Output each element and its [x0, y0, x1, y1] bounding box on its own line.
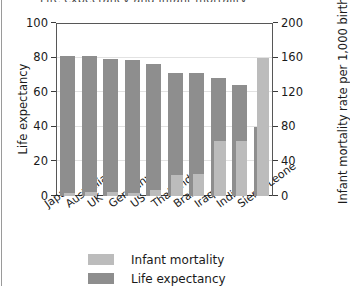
left-axis-line [56, 23, 57, 196]
right-tick-mark [273, 57, 278, 58]
bar-slot [146, 23, 161, 196]
left-tick-label: 40 [33, 121, 48, 133]
bar-infant-mortality[interactable] [85, 192, 97, 196]
bar-life-expectancy[interactable] [146, 64, 161, 196]
bar-infant-mortality[interactable] [193, 174, 205, 196]
left-tick-label: 80 [33, 52, 48, 64]
bar-slot [189, 23, 204, 196]
bar-infant-mortality[interactable] [214, 141, 226, 196]
bar-infant-mortality[interactable] [171, 175, 183, 196]
bar-life-expectancy[interactable] [125, 60, 140, 196]
legend-item[interactable]: Life expectancy [88, 270, 278, 286]
right-tick-label: 80 [281, 121, 296, 133]
right-axis-line [272, 23, 273, 196]
left-tick-mark [51, 91, 56, 92]
bar-life-expectancy[interactable] [82, 56, 97, 196]
right-tick-mark [273, 126, 278, 127]
bar-slot [82, 23, 97, 196]
bar-slot [103, 23, 118, 196]
legend-swatch [88, 273, 114, 284]
left-tick-mark [51, 126, 56, 127]
plot-area: 020406080100 04080120160200 [57, 23, 272, 196]
right-axis-title: Infant mortality rate per 1,000 births [336, 0, 350, 14]
right-tick-label: 160 [281, 52, 303, 64]
right-tick-label: 0 [281, 191, 288, 203]
left-tick-mark [51, 22, 56, 23]
bar-slot [211, 23, 226, 196]
right-tick-label: 200 [281, 18, 303, 30]
right-tick-mark [273, 160, 278, 161]
chart-title-cropped: Life expectancy and infant mortality [40, 0, 300, 2]
bar-infant-mortality[interactable] [236, 141, 248, 196]
left-axis-title-text: Life expectancy [16, 34, 30, 184]
bar-life-expectancy[interactable] [103, 59, 118, 196]
legend-label: Life expectancy [131, 272, 226, 286]
bar-infant-mortality[interactable] [64, 193, 76, 196]
left-tick-label: 60 [33, 87, 48, 99]
left-tick-label: 100 [26, 18, 48, 30]
left-tick-mark [51, 160, 56, 161]
legend-label: Infant mortality [131, 253, 224, 267]
bar-infant-mortality[interactable] [128, 193, 140, 196]
right-axis-title-text: Infant mortality rate per 1,000 births [336, 14, 350, 204]
bar-life-expectancy[interactable] [60, 56, 75, 196]
bar-slot [168, 23, 183, 196]
right-tick-mark [273, 22, 278, 23]
bar-infant-mortality[interactable] [107, 192, 119, 196]
legend-swatch [88, 254, 114, 265]
bar-infant-mortality[interactable] [150, 190, 162, 196]
left-tick-mark [51, 57, 56, 58]
bar-slot [254, 23, 269, 196]
bar-slot [125, 23, 140, 196]
left-tick-label: 20 [33, 156, 48, 168]
right-tick-mark [273, 91, 278, 92]
right-tick-mark [273, 195, 278, 196]
category-axis-labels: JapanAustraliaUKGermanyUSThailandBrazilI… [57, 196, 272, 254]
chart-legend: Infant mortalityLife expectancy [88, 251, 278, 286]
bar-infant-mortality[interactable] [257, 58, 269, 196]
legend-item[interactable]: Infant mortality [88, 251, 278, 268]
right-tick-label: 120 [281, 87, 303, 99]
bar-slot [60, 23, 75, 196]
bar-slot [232, 23, 247, 196]
